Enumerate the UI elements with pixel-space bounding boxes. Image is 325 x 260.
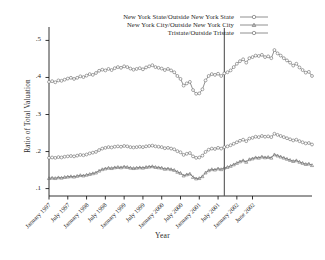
series-marker-0	[257, 55, 260, 58]
series-marker-0	[292, 64, 295, 67]
series-marker-0	[154, 66, 157, 69]
y-tick-label-3: .4	[25, 72, 41, 80]
series-marker-1	[207, 148, 210, 151]
series-marker-0	[245, 61, 248, 64]
series-marker-1	[91, 151, 94, 154]
series-marker-0	[104, 69, 107, 72]
series-marker-0	[66, 77, 69, 80]
series-marker-0	[264, 56, 267, 59]
series-marker-1	[113, 145, 116, 148]
series-marker-0	[48, 80, 51, 83]
series-marker-1	[101, 147, 104, 150]
series-marker-0	[232, 66, 235, 69]
series-marker-1	[69, 155, 72, 158]
series-marker-0	[176, 75, 179, 78]
series-marker-0	[254, 54, 257, 57]
series-marker-0	[229, 69, 232, 72]
series-marker-1	[213, 148, 216, 151]
series-marker-0	[110, 69, 113, 72]
series-marker-0	[301, 69, 304, 72]
series-marker-1	[260, 135, 263, 138]
series-marker-1	[298, 140, 301, 143]
series-marker-0	[173, 71, 176, 74]
series-marker-0	[235, 62, 238, 65]
series-marker-0	[270, 57, 273, 60]
series-marker-1	[110, 146, 113, 149]
series-marker-1	[188, 152, 191, 155]
series-marker-1	[126, 145, 129, 148]
series-marker-0	[217, 72, 220, 75]
series-marker-1	[264, 135, 267, 138]
series-marker-0	[63, 78, 66, 81]
legend-marker-glyph-0	[252, 15, 255, 18]
series-marker-0	[170, 69, 173, 72]
series-marker-1	[123, 145, 126, 148]
legend-label-ny-city: New York City/Outside New York City	[48, 21, 234, 28]
series-marker-1	[286, 137, 289, 140]
series-marker-0	[107, 67, 110, 70]
series-marker-0	[210, 73, 213, 76]
chart-plot-area	[0, 0, 325, 260]
series-marker-0	[135, 67, 138, 70]
series-marker-0	[132, 68, 135, 71]
series-marker-0	[311, 75, 314, 78]
series-marker-1	[104, 146, 107, 149]
series-marker-0	[207, 75, 210, 78]
series-marker-0	[82, 76, 85, 79]
series-marker-1	[154, 145, 157, 148]
series-marker-0	[163, 69, 166, 72]
series-marker-1	[173, 148, 176, 151]
y-tick-label-4: .5	[25, 35, 41, 43]
series-marker-0	[57, 79, 60, 82]
series-marker-0	[276, 52, 279, 55]
series-marker-0	[295, 62, 298, 65]
series-marker-1	[195, 156, 198, 159]
y-tick-label-0: .1	[25, 184, 41, 192]
series-marker-0	[226, 71, 229, 74]
series-marker-1	[66, 155, 69, 158]
series-marker-0	[88, 73, 91, 76]
series-marker-1	[76, 154, 79, 157]
series-marker-1	[145, 145, 148, 148]
legend-item-tristate[interactable]: Tristate/Outside Tristate	[48, 29, 234, 36]
series-marker-1	[185, 152, 188, 155]
series-marker-1	[229, 144, 232, 147]
series-marker-1	[292, 139, 295, 142]
series-marker-1	[223, 146, 226, 149]
series-marker-1	[217, 146, 220, 149]
series-marker-1	[273, 132, 276, 135]
series-marker-0	[129, 67, 132, 70]
series-marker-1	[179, 151, 182, 154]
series-marker-0	[304, 71, 307, 74]
series-marker-1	[201, 154, 204, 157]
legend-item-ny-city[interactable]: New York City/Outside New York City	[48, 21, 234, 28]
legend-label-tristate: Tristate/Outside Tristate	[48, 29, 234, 36]
x-axis-title: Year	[0, 231, 325, 240]
y-tick-label-2: .3	[25, 110, 41, 118]
series-marker-0	[267, 55, 270, 58]
series-marker-0	[179, 77, 182, 80]
series-marker-1	[198, 156, 201, 159]
series-marker-1	[148, 145, 151, 148]
series-marker-1	[311, 143, 314, 146]
series-marker-0	[167, 67, 170, 70]
series-marker-0	[182, 84, 185, 87]
series-marker-0	[260, 53, 263, 56]
series-marker-1	[151, 144, 154, 147]
series-marker-1	[248, 137, 251, 140]
series-marker-1	[282, 136, 285, 139]
series-marker-0	[286, 59, 289, 62]
legend-item-ny-state[interactable]: New York State/Outside New York State	[48, 13, 234, 20]
series-marker-1	[48, 156, 51, 159]
series-marker-1	[88, 152, 91, 155]
series-marker-1	[63, 155, 66, 158]
series-marker-1	[73, 155, 76, 158]
series-marker-1	[157, 145, 160, 148]
series-marker-1	[176, 150, 179, 153]
series-marker-1	[276, 133, 279, 136]
series-marker-0	[307, 70, 310, 73]
series-marker-1	[170, 147, 173, 150]
series-marker-1	[82, 154, 85, 157]
series-marker-0	[95, 72, 98, 75]
series-marker-1	[220, 147, 223, 150]
